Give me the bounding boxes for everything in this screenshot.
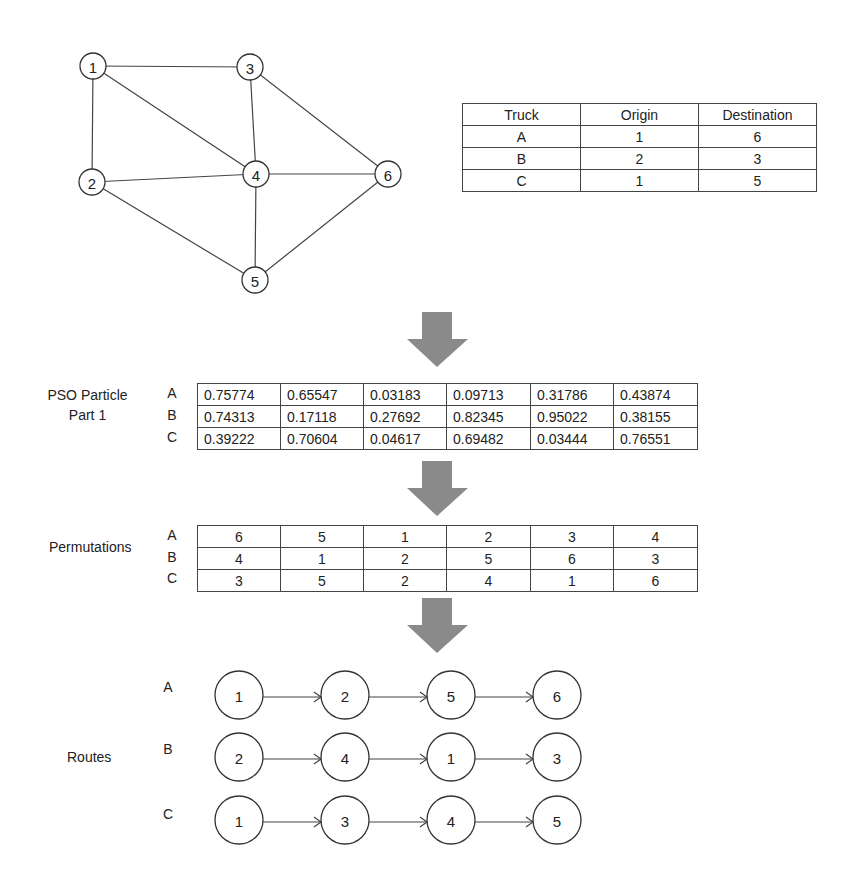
svg-text:1: 1	[235, 688, 243, 705]
route-node: 4	[321, 733, 369, 781]
cell: 2	[581, 148, 699, 170]
pso-row-label-a: A	[164, 385, 180, 401]
cell: 3	[699, 148, 817, 170]
graph-edge	[250, 67, 256, 174]
cell: 6	[699, 126, 817, 148]
cell: 6	[614, 570, 698, 592]
cell: 2	[364, 548, 447, 570]
svg-text:1: 1	[447, 750, 455, 767]
svg-text:2: 2	[341, 688, 349, 705]
graph-edge	[250, 67, 388, 174]
table-row: C 1 5	[463, 170, 817, 192]
route-node: 5	[427, 671, 475, 719]
graph-node-2: 2	[79, 169, 105, 195]
pso-row-label-c: C	[164, 429, 180, 445]
graph-node-1: 1	[80, 53, 106, 79]
cell: 0.04617	[364, 428, 447, 450]
down-arrow-icon	[407, 312, 469, 368]
route-node: 3	[533, 733, 581, 781]
cell: 5	[699, 170, 817, 192]
svg-text:4: 4	[447, 813, 455, 830]
route-node: 4	[427, 796, 475, 844]
svg-text:5: 5	[553, 813, 561, 830]
cell: 0.75774	[198, 384, 281, 406]
graph-edge	[93, 66, 256, 174]
graph-edge	[92, 174, 256, 182]
graph-edge	[92, 182, 255, 280]
table-row: 4 1 2 5 6 3	[198, 548, 698, 570]
route-node: 2	[321, 671, 369, 719]
cell: 0.69482	[447, 428, 531, 450]
perm-row-label-c: C	[164, 570, 180, 586]
routes-label: Routes	[67, 749, 111, 765]
route-diagram: 125624131345	[215, 671, 581, 844]
route-node: 3	[321, 796, 369, 844]
route-node: 1	[215, 671, 263, 719]
svg-text:3: 3	[553, 750, 561, 767]
cell: 0.43874	[614, 384, 698, 406]
route-arrow-icon	[369, 817, 427, 827]
svg-text:1: 1	[89, 59, 97, 76]
cell: 2	[447, 526, 531, 548]
svg-text:6: 6	[384, 167, 392, 184]
route-arrow-icon	[475, 692, 533, 702]
pso-particle-label: PSO Particle Part 1	[30, 385, 145, 425]
cell: 4	[447, 570, 531, 592]
graph-node-6: 6	[375, 161, 401, 187]
route-node: 2	[215, 733, 263, 781]
perm-row-label-a: A	[164, 527, 180, 543]
cell: B	[463, 148, 581, 170]
svg-text:5: 5	[251, 273, 259, 290]
table-row: 3 5 2 4 1 6	[198, 570, 698, 592]
pso-particle-table: 0.75774 0.65547 0.03183 0.09713 0.31786 …	[197, 383, 698, 450]
graph-node-4: 4	[243, 161, 269, 187]
table-row: B 2 3	[463, 148, 817, 170]
cell: 5	[447, 548, 531, 570]
cell: 1	[581, 126, 699, 148]
graph-edge	[93, 66, 250, 67]
route-node: 1	[215, 796, 263, 844]
cell: C	[463, 170, 581, 192]
cell: 0.95022	[531, 406, 614, 428]
header-destination: Destination	[699, 104, 817, 126]
route-label-b: B	[160, 741, 176, 757]
cell: 6	[531, 548, 614, 570]
table-row: 0.39222 0.70604 0.04617 0.69482 0.03444 …	[198, 428, 698, 450]
pso-row-label-b: B	[164, 407, 180, 423]
graph-edge	[255, 174, 256, 280]
cell: 0.39222	[198, 428, 281, 450]
truck-table-header: Truck Origin Destination	[463, 104, 817, 126]
cell: 1	[364, 526, 447, 548]
svg-text:3: 3	[341, 813, 349, 830]
graph-edges	[92, 66, 388, 280]
permutations-label: Permutations	[49, 539, 131, 555]
down-arrow-icon	[407, 598, 469, 654]
route-arrow-icon	[475, 817, 533, 827]
cell: 5	[281, 526, 364, 548]
perm-row-label-b: B	[164, 549, 180, 565]
svg-text:4: 4	[252, 167, 260, 184]
route-label-a: A	[160, 679, 176, 695]
pso-label-line2: Part 1	[30, 405, 145, 425]
cell: 3	[614, 548, 698, 570]
route-arrow-icon	[475, 754, 533, 764]
cell: 1	[581, 170, 699, 192]
cell: 0.82345	[447, 406, 531, 428]
route-arrow-icon	[369, 754, 427, 764]
route-node: 6	[533, 671, 581, 719]
cell: 3	[531, 526, 614, 548]
cell: 0.74313	[198, 406, 281, 428]
cell: 0.76551	[614, 428, 698, 450]
cell: 0.03183	[364, 384, 447, 406]
down-arrow-icon	[407, 461, 469, 517]
svg-text:2: 2	[88, 175, 96, 192]
route-arrow-icon	[263, 692, 321, 702]
table-row: A 1 6	[463, 126, 817, 148]
svg-text:2: 2	[235, 750, 243, 767]
cell: 0.09713	[447, 384, 531, 406]
route-node: 1	[427, 733, 475, 781]
table-row: 0.74313 0.17118 0.27692 0.82345 0.95022 …	[198, 406, 698, 428]
cell: A	[463, 126, 581, 148]
cell: 0.31786	[531, 384, 614, 406]
cell: 0.03444	[531, 428, 614, 450]
